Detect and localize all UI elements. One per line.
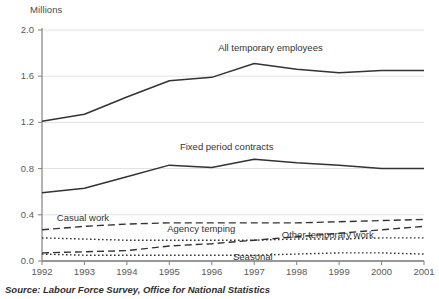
series-label: Casual work <box>57 212 109 223</box>
x-axis-tick-label: 1992 <box>22 266 62 277</box>
series-label: Fixed period contracts <box>180 141 273 152</box>
source-note: Source: Labour Force Survey, Office for … <box>5 284 270 295</box>
y-axis-tick-label: 2.0 <box>8 24 34 35</box>
y-axis-tick-label: 0.4 <box>8 209 34 220</box>
series-line <box>42 159 424 193</box>
x-axis-tick-label: 1998 <box>277 266 317 277</box>
x-axis-tick-label: 1995 <box>149 266 189 277</box>
x-axis-tick-label: 1993 <box>64 266 104 277</box>
x-axis-tick-label: 1999 <box>319 266 359 277</box>
series-label: Agency temping <box>167 223 235 234</box>
y-axis-unit-label: Millions <box>30 4 62 15</box>
x-axis-tick-label: 2001 <box>404 266 439 277</box>
y-axis-tick-label: 1.6 <box>8 70 34 81</box>
series-line <box>42 64 424 122</box>
y-axis-tick-label: 0.8 <box>8 163 34 174</box>
x-axis-tick-label: 2000 <box>362 266 402 277</box>
y-axis-tick-label: 0.0 <box>8 255 34 266</box>
x-axis-tick-label: 1997 <box>234 266 274 277</box>
x-axis-tick-label: 1994 <box>107 266 147 277</box>
series-label: Seasonal <box>233 251 273 262</box>
series-label: All temporary employees <box>218 42 323 53</box>
x-axis-tick-label: 1996 <box>192 266 232 277</box>
series-label: Other temporary work <box>282 229 374 240</box>
y-axis-tick-label: 1.2 <box>8 116 34 127</box>
